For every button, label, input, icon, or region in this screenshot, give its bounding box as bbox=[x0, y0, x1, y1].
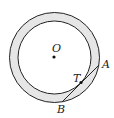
center-point bbox=[52, 55, 55, 58]
label-a: A bbox=[101, 58, 110, 71]
diagram-canvas: O T A B bbox=[0, 0, 114, 118]
label-o: O bbox=[52, 42, 61, 55]
label-b: B bbox=[56, 103, 65, 116]
